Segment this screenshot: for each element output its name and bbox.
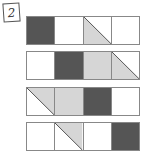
cell-dark <box>27 17 55 44</box>
cell-light <box>55 88 83 115</box>
cell-white <box>27 123 55 150</box>
pattern-row-1 <box>26 16 140 45</box>
cell-diag-upper-right <box>27 88 55 115</box>
cell-dark <box>112 123 139 150</box>
cell-white <box>112 88 139 115</box>
cell-dark <box>55 52 83 79</box>
cell-dark <box>84 88 112 115</box>
pattern-row-2 <box>26 51 140 80</box>
figure-label: 2 <box>2 2 20 22</box>
cell-diag-lower-left <box>112 52 139 79</box>
pattern-row-3 <box>26 87 140 116</box>
cell-white <box>84 123 112 150</box>
cell-light <box>84 52 112 79</box>
cell-diag-upper-right <box>55 123 83 150</box>
pattern-row-4 <box>26 122 140 151</box>
cell-white <box>27 52 55 79</box>
cell-white <box>55 17 83 44</box>
cell-diag-lower-left <box>84 17 112 44</box>
cell-white <box>112 17 139 44</box>
